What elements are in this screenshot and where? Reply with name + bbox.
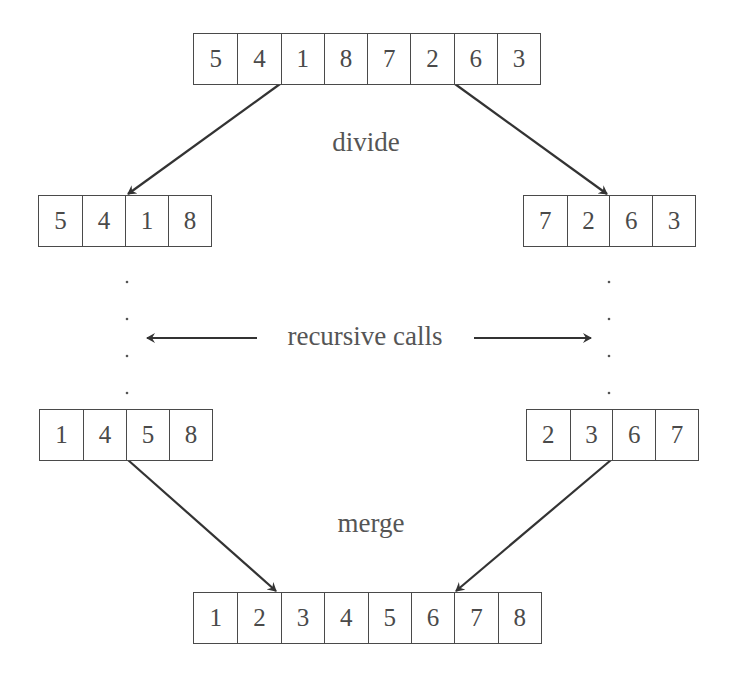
array-cell: 4 (324, 593, 367, 643)
array-cell: 5 (194, 34, 237, 84)
array-cell: 8 (168, 196, 211, 246)
array-cell: 1 (125, 196, 168, 246)
array-cell: 1 (281, 34, 324, 84)
array-cell: 5 (126, 410, 169, 460)
array-cell: 2 (237, 593, 280, 643)
array-cell: 8 (169, 410, 212, 460)
left-half-array: 5 4 1 8 (38, 195, 212, 247)
input-array: 5 4 1 8 7 2 6 3 (193, 33, 541, 85)
array-cell: 4 (82, 196, 125, 246)
right-half-array: 7 2 6 3 (523, 195, 696, 247)
dots-right (608, 281, 611, 395)
array-cell: 3 (652, 196, 695, 246)
array-cell: 6 (411, 593, 454, 643)
array-cell: 6 (612, 410, 655, 460)
array-cell: 6 (454, 34, 497, 84)
array-cell: 3 (570, 410, 613, 460)
array-cell: 8 (324, 34, 367, 84)
array-cell: 2 (567, 196, 610, 246)
array-cell: 2 (527, 410, 570, 460)
array-cell: 4 (83, 410, 126, 460)
merge-arrow-left (128, 460, 276, 591)
array-cell: 7 (454, 593, 497, 643)
array-cell: 7 (524, 196, 567, 246)
left-sorted-array: 1 4 5 8 (39, 409, 213, 461)
array-cell: 1 (194, 593, 237, 643)
array-cell: 5 (368, 593, 411, 643)
array-cell: 7 (655, 410, 698, 460)
array-cell: 8 (498, 593, 541, 643)
divide-label: divide (332, 127, 400, 158)
array-cell: 6 (609, 196, 652, 246)
array-cell: 3 (281, 593, 324, 643)
array-cell: 2 (410, 34, 453, 84)
array-cell: 4 (237, 34, 280, 84)
divide-arrow-left (128, 84, 280, 194)
output-array: 1 2 3 4 5 6 7 8 (193, 592, 542, 644)
divide-arrow-right (455, 84, 607, 194)
array-cell: 1 (40, 410, 83, 460)
merge-label: merge (338, 508, 405, 539)
dots-left (126, 281, 129, 395)
array-cell: 5 (39, 196, 82, 246)
merge-arrow-right (456, 460, 611, 591)
array-cell: 7 (367, 34, 410, 84)
recursive-calls-label: recursive calls (287, 321, 442, 352)
right-sorted-array: 2 3 6 7 (526, 409, 699, 461)
array-cell: 3 (497, 34, 540, 84)
